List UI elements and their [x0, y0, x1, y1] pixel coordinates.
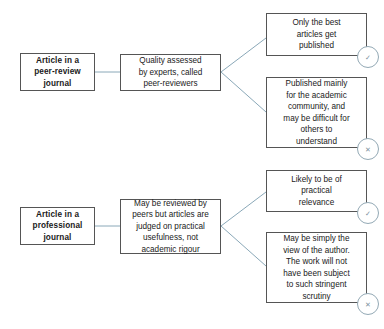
cross-icon: ✕ [357, 138, 379, 160]
node-peer-review-outcome-negative: Published mainly for the academic commun… [266, 77, 367, 148]
badge-glyph: ✓ [365, 210, 371, 217]
connector-peer-process-to-outcome-1 [221, 38, 266, 72]
node-label: Published mainly for the academic commun… [270, 78, 363, 147]
node-professional-outcome-negative: May be simply the view of the author. Th… [266, 232, 367, 303]
badge-glyph: ✕ [365, 146, 371, 153]
node-peer-review-outcome-positive: Only the best articles get published [266, 13, 367, 56]
node-label: May be simply the view of the author. Th… [270, 233, 363, 302]
cross-icon: ✕ [357, 293, 379, 315]
node-label: Article in a peer-review journal [24, 55, 91, 90]
connector-prof-process-to-outcome-2 [221, 226, 266, 266]
node-professional-source: Article in a professional journal [20, 207, 95, 245]
node-label: Only the best articles get published [270, 17, 363, 52]
node-label: May be reviewed by peers but articles ar… [124, 198, 217, 256]
node-peer-review-process: Quality assessed by experts, called peer… [120, 54, 221, 91]
node-label: Article in a professional journal [24, 209, 91, 244]
badge-glyph: ✓ [365, 54, 371, 61]
node-label: Quality assessed by experts, called peer… [124, 55, 217, 90]
badge-glyph: ✕ [365, 301, 371, 308]
check-icon: ✓ [357, 202, 379, 224]
node-peer-review-source: Article in a peer-review journal [20, 53, 95, 91]
connector-prof-process-to-outcome-1 [221, 192, 266, 226]
node-professional-outcome-positive: Likely to be of practical relevance [266, 170, 367, 212]
check-icon: ✓ [357, 46, 379, 68]
node-label: Likely to be of practical relevance [270, 174, 363, 209]
node-professional-process: May be reviewed by peers but articles ar… [120, 199, 221, 254]
connector-peer-process-to-outcome-2 [221, 72, 266, 112]
flowchart-diagram: Article in a peer-review journal Quality… [0, 0, 384, 329]
